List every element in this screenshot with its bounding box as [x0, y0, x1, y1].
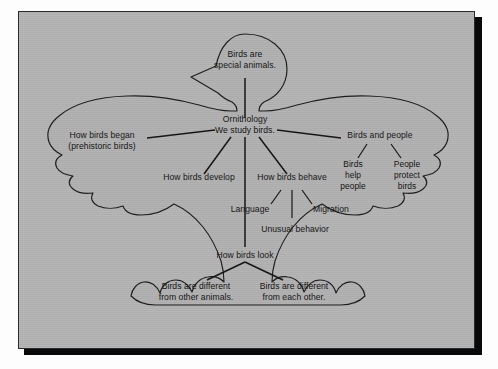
page-root: Birds are special animals. Ornithology W… [0, 0, 498, 369]
node-develop-line1: How birds develop [163, 172, 235, 182]
node-people-protect-line1: People [394, 159, 421, 169]
node-head-line1: Birds are [228, 49, 263, 59]
node-language-line1: Language [231, 204, 270, 214]
node-birds-help-line3: people [340, 181, 366, 191]
node-birds-help-line2: help [345, 170, 361, 180]
node-unusual-line1: Unusual behavior [261, 224, 329, 234]
bird-silhouette-outline [48, 34, 448, 305]
node-center-line2: We study birds. [215, 125, 275, 135]
node-diff-each-line1: Birds are different [260, 281, 329, 291]
node-people-protect-line2: protect [394, 170, 421, 180]
node-diff-animals-line1: Birds are different [162, 281, 231, 291]
node-began-line2: (prehistoric birds) [68, 141, 135, 151]
node-migration-line1: Migration [313, 204, 349, 214]
node-people-protect-line3: birds [398, 181, 416, 191]
node-began-line1: How birds began [69, 130, 134, 140]
node-center-line1: Ornithology [223, 114, 268, 124]
node-look-line1: How birds look [216, 250, 274, 260]
node-people-line1: Birds and people [347, 130, 412, 140]
bird-concept-map: Birds are special animals. Ornithology W… [19, 12, 474, 348]
node-diff-animals-line2: from other animals. [159, 292, 234, 302]
node-birds-help-line1: Birds [343, 159, 362, 169]
node-head-line2: special animals. [214, 60, 276, 70]
node-diff-each-line2: from each other. [263, 292, 326, 302]
illustration-frame: Birds are special animals. Ornithology W… [18, 11, 475, 349]
node-behave-line1: How birds behave [257, 172, 327, 182]
